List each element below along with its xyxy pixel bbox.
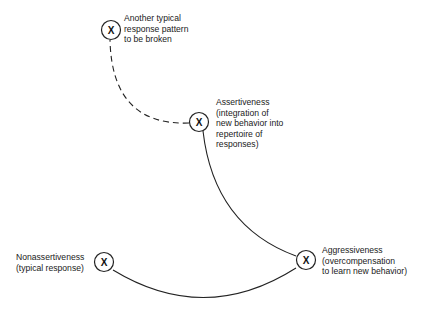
node-nonassertiveness: X bbox=[95, 253, 114, 272]
label-line: Aggressiveness bbox=[322, 245, 407, 256]
label-line: Nonassertiveness bbox=[16, 252, 84, 263]
label-line: responses) bbox=[216, 139, 283, 150]
label-aggressiveness: Aggressiveness (overcompensation to lear… bbox=[322, 245, 407, 277]
label-line: Another typical bbox=[124, 13, 189, 24]
node-aggressiveness: X bbox=[297, 251, 316, 270]
x-marker-icon: X bbox=[196, 117, 203, 128]
node-another-response: X bbox=[102, 21, 121, 40]
label-line: response pattern bbox=[124, 24, 189, 35]
label-line: repertoire of bbox=[216, 129, 283, 140]
label-line: to learn new behavior) bbox=[322, 266, 407, 277]
label-line: Assertiveness bbox=[216, 97, 283, 108]
label-line: (typical response) bbox=[16, 263, 84, 274]
node-assertiveness: X bbox=[190, 113, 209, 132]
label-line: new behavior into bbox=[216, 118, 283, 129]
label-line: (overcompensation bbox=[322, 256, 407, 267]
x-marker-icon: X bbox=[101, 257, 108, 268]
edge-assertiveness-to-another bbox=[110, 40, 189, 123]
label-line: to be broken bbox=[124, 34, 189, 45]
label-nonassertiveness: Nonassertiveness (typical response) bbox=[16, 252, 84, 273]
label-line: (integration of bbox=[216, 108, 283, 119]
x-marker-icon: X bbox=[303, 255, 310, 266]
label-another-response: Another typical response pattern to be b… bbox=[124, 13, 189, 45]
label-assertiveness: Assertiveness (integration of new behavi… bbox=[216, 97, 283, 150]
x-marker-icon: X bbox=[108, 25, 115, 36]
edge-nonassertiveness-to-aggressiveness bbox=[113, 268, 296, 298]
